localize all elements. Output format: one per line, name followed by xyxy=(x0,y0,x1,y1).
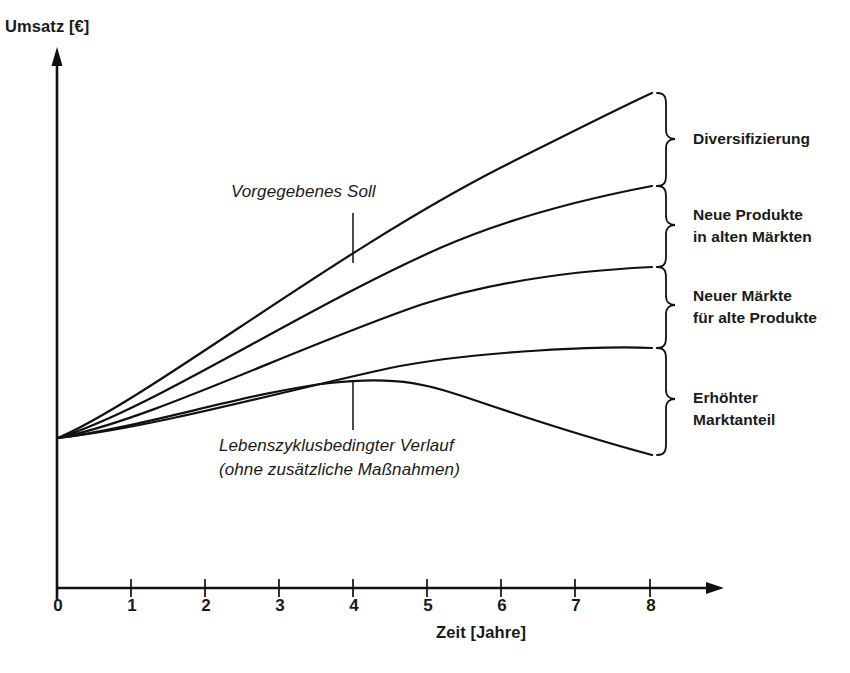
brace-neue-produkte-in-alten-maerkten xyxy=(657,186,675,267)
x-tick-label-1: 1 xyxy=(117,596,147,616)
x-tick-label-8: 8 xyxy=(636,596,666,616)
brace-label-neuer-maerkte-line2: für alte Produkte xyxy=(693,309,817,327)
chart-canvas xyxy=(0,0,850,673)
x-tick-label-6: 6 xyxy=(487,596,517,616)
x-axis xyxy=(56,582,724,594)
brace-label-erhoehter-line1: Erhöhter xyxy=(693,389,758,407)
annotation-lebenszyklus-line2: (ohne zusätzliche Maßnahmen) xyxy=(219,460,460,480)
brace-label-neuer-maerkte-line1: Neuer Märkte xyxy=(693,287,792,305)
x-tick-label-7: 7 xyxy=(561,596,591,616)
curve-neuer-maerkte-fuer-alte-produkte xyxy=(58,267,652,438)
figure-root: Umsatz [€] Zeit [Jahre] 0 1 2 3 4 5 6 7 … xyxy=(0,0,850,673)
brace-erhoehter-marktanteil xyxy=(657,348,675,455)
curve-erhoehter-marktanteil xyxy=(58,348,652,438)
x-tick-label-2: 2 xyxy=(191,596,221,616)
brace-neuer-maerkte-fuer-alte-produkte xyxy=(657,267,675,348)
x-axis-title: Zeit [Jahre] xyxy=(436,623,526,642)
curve-diversifizierung xyxy=(58,93,652,438)
brace-diversifizierung xyxy=(657,93,675,186)
x-tick-label-0: 0 xyxy=(43,596,73,616)
y-axis-title: Umsatz [€] xyxy=(5,17,89,36)
annotation-lebenszyklus-line1: Lebenszyklusbedingter Verlauf xyxy=(219,436,454,456)
annotation-vorgegebenes-soll: Vorgegebenes Soll xyxy=(231,182,376,202)
brace-label-diversifizierung: Diversifizierung xyxy=(693,130,810,148)
growth-curves xyxy=(58,93,652,455)
brace-label-neue-produkte-line2: in alten Märkten xyxy=(693,228,812,246)
brace-group xyxy=(657,93,675,455)
x-tick-label-3: 3 xyxy=(265,596,295,616)
brace-label-neue-produkte-line1: Neue Produkte xyxy=(693,206,803,224)
x-tick-label-5: 5 xyxy=(413,596,443,616)
curve-neue-produkte-in-alten-maerkten xyxy=(58,186,652,438)
brace-label-erhoehter-line2: Marktanteil xyxy=(693,411,775,429)
x-tick-label-4: 4 xyxy=(339,596,369,616)
y-axis xyxy=(52,47,63,600)
